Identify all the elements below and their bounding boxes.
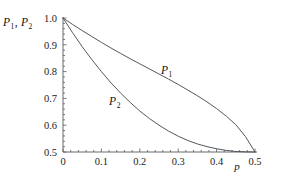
y-tick-label: 0.6 xyxy=(44,120,57,131)
y-axis-ticks xyxy=(63,18,67,152)
y-axis-tick-labels: 0.50.60.70.80.91.0 xyxy=(44,13,57,158)
curve-P1 xyxy=(63,18,255,152)
y-axis-title: P1, P2 xyxy=(2,16,33,31)
x-axis-title: p xyxy=(233,160,240,172)
curve-annotations: P1P2 xyxy=(108,64,172,109)
curve-P2 xyxy=(63,18,255,152)
P2-curve-label: P2 xyxy=(108,95,121,110)
P1-curve-label: P1 xyxy=(160,64,173,79)
x-tick-label: 0.5 xyxy=(248,156,261,167)
x-tick-label: 0.3 xyxy=(172,156,185,167)
x-tick-label: 0.1 xyxy=(95,156,108,167)
y-tick-label: 0.5 xyxy=(44,147,57,158)
y-tick-label: 0.9 xyxy=(44,40,57,51)
y-tick-label: 0.7 xyxy=(44,93,57,104)
x-tick-label: 0 xyxy=(60,156,65,167)
x-tick-label: 0.4 xyxy=(210,156,224,167)
x-axis-tick-labels: 00.10.20.30.40.5 xyxy=(60,156,261,167)
axes xyxy=(63,17,257,152)
data-curves xyxy=(63,18,255,152)
y-tick-label: 0.8 xyxy=(44,66,57,77)
y-tick-label: 1.0 xyxy=(44,13,57,24)
x-tick-label: 0.2 xyxy=(133,156,146,167)
